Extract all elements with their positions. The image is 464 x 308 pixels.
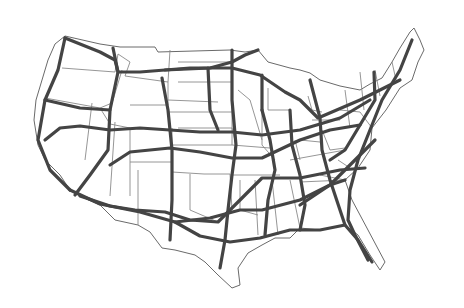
map-canvas [0, 0, 464, 308]
us-interstate-map [0, 0, 464, 308]
